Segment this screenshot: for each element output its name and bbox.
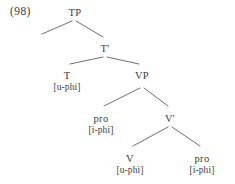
tree-node-pro-subject: pro[i-phi] xyxy=(89,113,114,136)
node-feature-v: [u-phi] xyxy=(116,165,143,175)
node-label-pro-subject: pro xyxy=(89,113,114,124)
tree-node-v-bar: V' xyxy=(165,113,175,124)
tree-branch-vbar-to-pro xyxy=(172,127,200,146)
tree-node-v: V[u-phi] xyxy=(116,153,143,176)
node-feature-pro-subject: [i-phi] xyxy=(89,125,114,135)
tree-node-vp: VP xyxy=(135,70,149,81)
node-label-v: V xyxy=(116,153,143,164)
node-label-pro-object: pro xyxy=(190,153,215,164)
tree-branch-vp-to-vbar xyxy=(144,88,168,106)
tree-node-t: T[u-phi] xyxy=(53,70,80,93)
node-feature-t: [u-phi] xyxy=(53,82,80,92)
tree-branch-tbar-to-t xyxy=(70,57,103,64)
tree-branch-tbar-to-vp xyxy=(107,57,139,64)
node-label-tp: TP xyxy=(69,7,82,18)
tree-branch-vbar-to-v xyxy=(133,127,168,146)
node-label-t: T xyxy=(53,70,80,81)
tree-branch-tp-to-tbar xyxy=(76,21,103,37)
tree-node-tp: TP xyxy=(69,7,82,18)
tree-branch-vp-to-pro xyxy=(104,88,140,106)
syntax-tree-figure: (98) TPT'T[u-phi]VPpro[i-phi]V'V[u-phi]p… xyxy=(0,0,235,184)
node-feature-pro-object: [i-phi] xyxy=(190,165,215,175)
tree-node-pro-object: pro[i-phi] xyxy=(190,153,215,176)
tree-branch-tp-to-spec xyxy=(42,21,72,34)
tree-node-t-bar: T' xyxy=(101,43,110,54)
node-label-v-bar: V' xyxy=(165,113,175,124)
node-label-t-bar: T' xyxy=(101,43,110,54)
node-label-vp: VP xyxy=(135,70,149,81)
